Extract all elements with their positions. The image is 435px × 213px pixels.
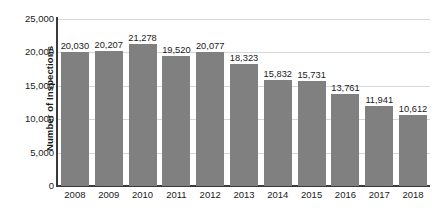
bar-value-label: 10,612 bbox=[391, 104, 435, 114]
bar-group[interactable]: 15,731 bbox=[298, 19, 326, 186]
bar[interactable] bbox=[298, 81, 326, 186]
bar-group[interactable]: 18,323 bbox=[230, 19, 258, 186]
bar-value-label: 18,323 bbox=[222, 53, 266, 63]
bar[interactable] bbox=[129, 44, 157, 186]
x-axis-tick-label: 2017 bbox=[362, 189, 396, 201]
y-axis-tick-label: 20,000 bbox=[10, 47, 54, 57]
x-axis-tick-label: 2010 bbox=[126, 189, 160, 201]
bar-group[interactable]: 19,520 bbox=[162, 19, 190, 186]
bar[interactable] bbox=[61, 52, 89, 186]
bar-value-label: 15,731 bbox=[290, 70, 334, 80]
bar-value-label: 21,278 bbox=[121, 33, 165, 43]
bar-group[interactable]: 20,030 bbox=[61, 19, 89, 186]
bar-chart: Number of Inspections 05,00010,00015,000… bbox=[0, 0, 435, 213]
x-axis-tick-label: 2012 bbox=[193, 189, 227, 201]
y-axis-tick-label: 10,000 bbox=[10, 114, 54, 124]
x-axis-tick-label: 2015 bbox=[295, 189, 329, 201]
bar-group[interactable]: 20,207 bbox=[95, 19, 123, 186]
x-axis-tick-labels: 2008200920102011201220132014201520162017… bbox=[58, 189, 430, 207]
bar-group[interactable]: 13,761 bbox=[331, 19, 359, 186]
y-axis-tick-label: 25,000 bbox=[10, 14, 54, 24]
y-axis-tick-labels: 05,00010,00015,00020,00025,000 bbox=[10, 0, 54, 213]
bar-group[interactable]: 20,077 bbox=[196, 19, 224, 186]
x-axis-tick-label: 2008 bbox=[58, 189, 92, 201]
bar[interactable] bbox=[230, 64, 258, 186]
bar-group[interactable]: 15,832 bbox=[264, 19, 292, 186]
x-axis-tick-label: 2013 bbox=[227, 189, 261, 201]
bar[interactable] bbox=[196, 52, 224, 186]
bars-container: 20,03020,20721,27819,52020,07718,32315,8… bbox=[58, 19, 430, 186]
y-axis-tick-label: 5,000 bbox=[10, 148, 54, 158]
bar[interactable] bbox=[331, 94, 359, 186]
x-axis-tick-label: 2014 bbox=[261, 189, 295, 201]
x-axis-tick-label: 2018 bbox=[396, 189, 430, 201]
bar[interactable] bbox=[365, 106, 393, 186]
bar-value-label: 20,077 bbox=[188, 41, 232, 51]
x-axis-tick-label: 2009 bbox=[92, 189, 126, 201]
bar-group[interactable]: 11,941 bbox=[365, 19, 393, 186]
y-axis-tick-label: 0 bbox=[10, 181, 54, 191]
x-axis-tick-label: 2011 bbox=[159, 189, 193, 201]
x-axis-tick-label: 2016 bbox=[329, 189, 363, 201]
bar-group[interactable]: 21,278 bbox=[129, 19, 157, 186]
y-axis-tick-label: 15,000 bbox=[10, 81, 54, 91]
bar-value-label: 13,761 bbox=[323, 83, 367, 93]
bar[interactable] bbox=[95, 51, 123, 186]
bar[interactable] bbox=[264, 80, 292, 186]
bar-group[interactable]: 10,612 bbox=[399, 19, 427, 186]
bar[interactable] bbox=[162, 56, 190, 186]
bar[interactable] bbox=[399, 115, 427, 186]
